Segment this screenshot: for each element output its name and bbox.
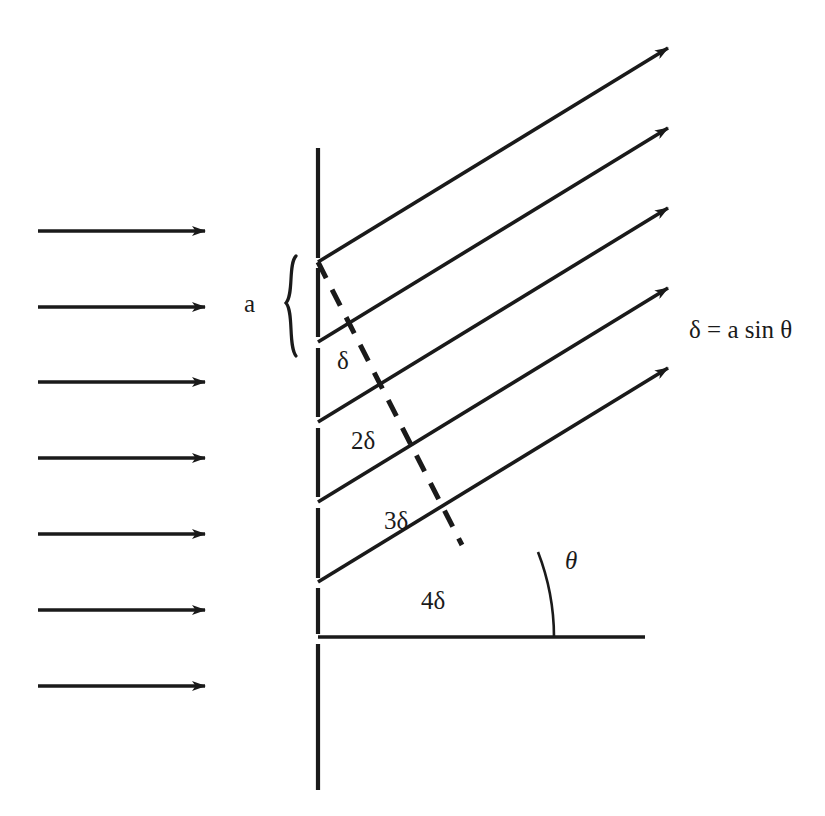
diffracted-ray-1 <box>318 48 668 262</box>
diffracted-ray-2 <box>318 128 668 342</box>
path-difference-1-label: δ <box>337 348 349 373</box>
diffracted-ray-4 <box>318 288 668 502</box>
path-difference-equation: δ = a sin θ <box>689 317 792 342</box>
diffraction-diagram-page: a δ 2δ 3δ 4δ θ δ = a sin θ <box>0 0 825 816</box>
theta-angle-arc <box>538 552 554 637</box>
wavefront-dashed-line <box>318 262 462 545</box>
path-difference-3-label: 3δ <box>384 508 408 533</box>
slit-spacing-brace <box>286 256 296 356</box>
slit-spacing-label: a <box>244 291 255 316</box>
angle-theta-label: θ <box>565 548 577 573</box>
path-difference-4-label: 4δ <box>421 588 445 613</box>
diffracted-ray-3 <box>318 208 668 422</box>
path-difference-2-label: 2δ <box>351 428 375 453</box>
diffraction-diagram-canvas <box>0 0 825 816</box>
diffracted-rays <box>318 48 668 582</box>
diffracted-ray-5 <box>318 368 668 582</box>
incident-wave-arrows <box>38 231 205 686</box>
